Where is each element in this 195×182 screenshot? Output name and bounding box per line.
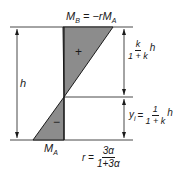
- upper-fraction: k 1 + k: [128, 40, 148, 61]
- r-fraction: 3α 1+3α: [97, 146, 120, 169]
- height-label: h: [20, 78, 26, 89]
- positive-moment-region: [63, 27, 113, 97]
- lower-segment-dimension-arrow: [122, 99, 126, 138]
- positive-sign: +: [75, 46, 82, 58]
- lower-dimension-label: yi = 1 1 + k h: [129, 105, 173, 126]
- yi-label: yi: [129, 110, 136, 122]
- upper-dimension-label: k 1 + k h: [128, 40, 155, 61]
- top-moment-label: MB = −rMA: [66, 11, 116, 24]
- height-dimension-arrow: [15, 29, 19, 138]
- lower-fraction: 1 1 + k: [145, 105, 165, 126]
- upper-segment-dimension-arrow: [122, 29, 126, 95]
- r-formula: r = 3α 1+3α: [82, 146, 120, 169]
- bottom-moment-label: MA: [44, 143, 58, 156]
- negative-sign: −: [53, 116, 60, 128]
